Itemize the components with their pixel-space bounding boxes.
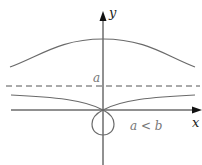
x-axis-arrow-icon	[192, 107, 202, 114]
x-axis-label: x	[192, 115, 200, 130]
y-axis-label: y	[108, 5, 117, 20]
condition-label: a < b	[130, 119, 163, 133]
y-axis-arrow-icon	[100, 11, 107, 21]
conchoid-diagram: y x a a < b	[0, 0, 202, 165]
asymptote-label: a	[93, 71, 100, 85]
